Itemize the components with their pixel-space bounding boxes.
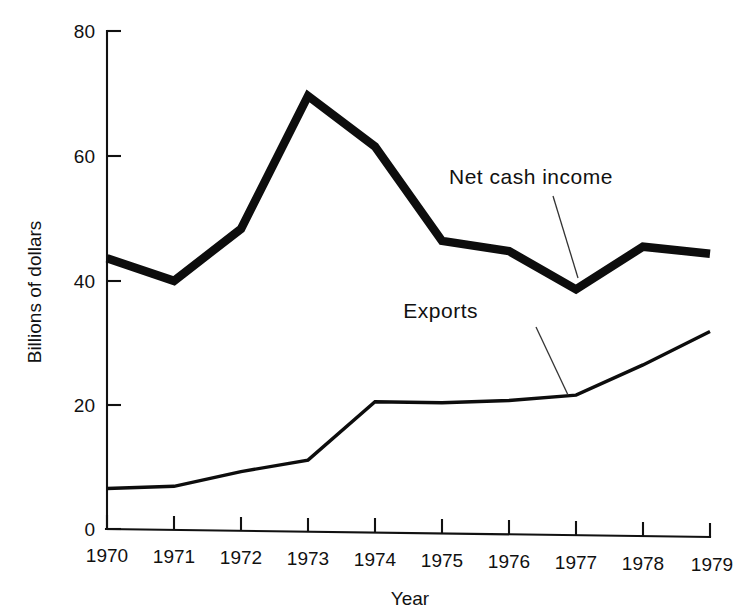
x-tick-label-1978: 1978 — [622, 553, 664, 574]
x-tick-label-1975: 1975 — [421, 550, 463, 571]
chart-figure: 80 60 40 20 0 1970 1971 1972 1973 1974 1… — [0, 0, 753, 614]
y-axis-title: Billions of dollars — [24, 221, 45, 364]
y-tick-label-40: 40 — [74, 271, 95, 292]
y-tick-label-0: 0 — [84, 519, 95, 540]
y-tick-label-60: 60 — [74, 146, 95, 167]
x-tick-label-1970: 1970 — [86, 545, 128, 566]
x-tick-label-1972: 1972 — [220, 547, 262, 568]
x-axis-title: Year — [391, 588, 430, 609]
x-tick-label-1979: 1979 — [691, 554, 733, 575]
line-chart: 80 60 40 20 0 1970 1971 1972 1973 1974 1… — [0, 0, 753, 614]
exports-label: Exports — [403, 299, 478, 322]
chart-background — [0, 0, 753, 614]
x-tick-label-1977: 1977 — [555, 552, 597, 573]
x-tick-label-1973: 1973 — [287, 548, 329, 569]
net-cash-income-label: Net cash income — [449, 165, 613, 188]
x-tick-label-1971: 1971 — [153, 546, 195, 567]
x-tick-label-1976: 1976 — [488, 551, 530, 572]
x-tick-label-1974: 1974 — [354, 549, 397, 570]
y-tick-label-80: 80 — [74, 21, 95, 42]
y-tick-label-20: 20 — [74, 395, 95, 416]
